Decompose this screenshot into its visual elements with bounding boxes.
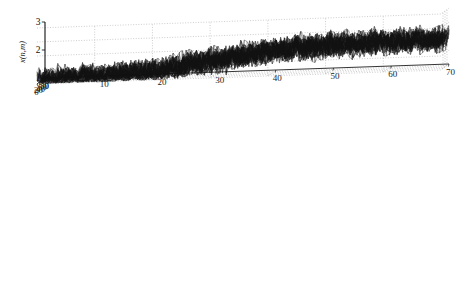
svg-text:x(n,m): x(n,m) [17, 41, 27, 64]
surface-plot-panel-2: 12360402000102030405060y0(n,m) [0, 100, 459, 200]
left-axis-tick-label: 0 [34, 87, 39, 97]
right-axis-tick-label: 0 [44, 81, 49, 91]
right-axis-tick-label: 60 [388, 69, 398, 79]
surface-mesh [37, 25, 449, 84]
figure-three-surface-plots: 123806040200010203040506070x(n,m) 123604… [0, 0, 459, 301]
right-axis-tick-label: 40 [273, 73, 283, 83]
plot-canvas: 123806040200010203040506070x(n,m) [0, 0, 459, 100]
plot-canvas: 12360402000102030405060y0(n,m) [0, 200, 459, 300]
right-axis-tick-label: 50 [331, 71, 341, 81]
surface-plot-panel-3: 12360402000102030405060y0(n,m) [0, 200, 459, 300]
z-tick-label: 3 [36, 17, 41, 27]
z-tick-label: 2 [36, 45, 41, 55]
right-axis-tick-label: 30 [215, 75, 225, 85]
right-axis-tick-label: 10 [100, 79, 110, 89]
z-axis-label: x(n,m) [17, 41, 27, 64]
right-axis-tick-label: 20 [157, 77, 167, 87]
surface-plot-panel-1: 123806040200010203040506070x(n,m) [0, 0, 459, 100]
right-axis-tick-label: 70 [446, 67, 456, 77]
plot-canvas: 12360402000102030405060y0(n,m) [0, 100, 459, 200]
